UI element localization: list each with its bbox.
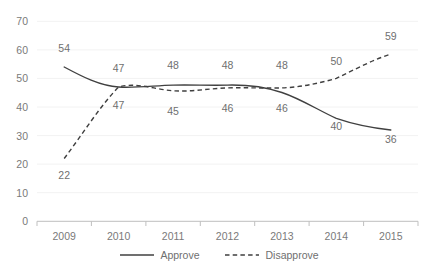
data-label-disapprove-2010: 47 — [99, 100, 139, 111]
data-label-disapprove-2011: 45 — [153, 106, 193, 117]
x-tick-label-2012: 2012 — [207, 231, 249, 242]
data-label-approve-2012: 48 — [208, 60, 248, 71]
data-label-approve-2013: 48 — [262, 60, 302, 71]
y-tick-label: 10 — [4, 188, 28, 199]
legend-swatch-dashed-line-icon — [225, 250, 259, 260]
chart-legend: Approve Disapprove — [0, 250, 439, 261]
data-label-approve-2010: 47 — [99, 63, 139, 74]
y-tick-label: 40 — [4, 102, 28, 113]
x-tick-label-2011: 2011 — [152, 231, 194, 242]
y-tick-label: 70 — [4, 16, 28, 27]
y-tick-label: 50 — [4, 73, 28, 84]
y-tick-label: 60 — [4, 45, 28, 56]
x-tick-label-2009: 2009 — [43, 231, 85, 242]
line-chart: 70 60 50 40 30 20 10 0 2009 2010 2011 20… — [0, 0, 439, 276]
y-tick-label: 30 — [4, 131, 28, 142]
data-label-disapprove-2013: 46 — [262, 103, 302, 114]
data-label-approve-2009: 54 — [44, 43, 84, 54]
data-label-approve-2011: 48 — [153, 60, 193, 71]
data-label-disapprove-2014: 50 — [316, 56, 356, 67]
data-label-disapprove-2012: 46 — [208, 103, 248, 114]
legend-item-approve[interactable]: Approve — [120, 250, 199, 261]
data-label-approve-2014: 40 — [316, 121, 356, 132]
y-tick-label: 20 — [4, 159, 28, 170]
data-label-approve-2015: 36 — [371, 134, 411, 145]
x-axis — [37, 221, 418, 226]
x-tick-label-2010: 2010 — [98, 231, 140, 242]
x-tick-label-2014: 2014 — [315, 231, 357, 242]
legend-swatch-solid-line-icon — [120, 250, 154, 260]
data-label-disapprove-2009: 22 — [44, 170, 84, 181]
x-tick-label-2013: 2013 — [261, 231, 303, 242]
x-tick-label-2015: 2015 — [370, 231, 412, 242]
legend-label-approve: Approve — [160, 250, 199, 261]
y-tick-label: 0 — [4, 216, 28, 227]
legend-label-disapprove: Disapprove — [265, 250, 318, 261]
data-label-disapprove-2015: 59 — [371, 31, 411, 42]
legend-item-disapprove[interactable]: Disapprove — [225, 250, 318, 261]
